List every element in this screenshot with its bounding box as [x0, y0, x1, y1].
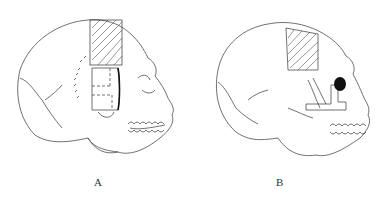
skull-b-drawing	[188, 0, 375, 199]
skull-a-drawing	[0, 0, 187, 199]
figure-label-a: A	[94, 176, 102, 188]
figure-a: A	[0, 0, 187, 199]
orbit-fill-icon	[334, 77, 346, 91]
figure-b: B	[188, 0, 375, 199]
figure-label-b: B	[276, 176, 283, 188]
